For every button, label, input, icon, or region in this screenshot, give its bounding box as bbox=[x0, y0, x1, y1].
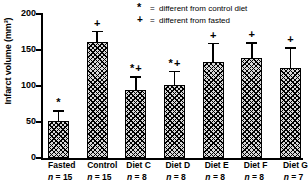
bar bbox=[241, 58, 262, 158]
y-axis-title-text: Infarct volume (mm³) bbox=[3, 18, 13, 105]
bar-group-diet-e: + bbox=[203, 14, 224, 158]
sample-size-label: n = 8 bbox=[205, 172, 226, 183]
asterisk-icon: * bbox=[56, 97, 61, 107]
error-bar-line bbox=[96, 31, 98, 43]
n-italic: n bbox=[284, 172, 289, 182]
bar-group-control: + bbox=[87, 14, 108, 158]
error-bar-line bbox=[58, 110, 60, 121]
significance-marker: + bbox=[287, 34, 294, 44]
bar-group-diet-d: *+ bbox=[164, 14, 185, 158]
n-italic: n bbox=[166, 172, 171, 182]
x-category-label: Control bbox=[87, 160, 108, 171]
error-bar-line bbox=[212, 43, 214, 62]
significance-marker: + bbox=[93, 18, 100, 28]
infarct-volume-bar-chart: * = different from control diet + = diff… bbox=[0, 0, 308, 196]
x-category-label: Diet G bbox=[283, 160, 304, 171]
error-bar-line bbox=[174, 71, 176, 85]
bar-group-diet-c: *+ bbox=[125, 14, 146, 158]
y-tick-200 bbox=[36, 13, 43, 15]
bar-group-diet-g: + bbox=[280, 14, 301, 158]
significance-marker: + bbox=[209, 30, 216, 40]
sample-size-label: n = 7 bbox=[283, 172, 304, 183]
error-bar-cap bbox=[246, 42, 257, 44]
error-bar-line bbox=[135, 76, 137, 90]
plus-icon: + bbox=[173, 58, 180, 68]
error-bar-cap bbox=[285, 47, 296, 49]
error-bar-cap bbox=[92, 31, 103, 33]
bar-series: *+*+*++++ bbox=[44, 14, 303, 158]
x-label-group-diet-d: Diet Dn = 8 bbox=[165, 160, 186, 183]
significance-marker: *+ bbox=[168, 58, 181, 68]
x-label-group-fasted: Fastedn = 15 bbox=[48, 160, 69, 183]
y-tick-label-200: 200 bbox=[8, 9, 36, 18]
error-bar-cap bbox=[208, 43, 219, 45]
y-axis-title: Infarct volume (mm³) bbox=[3, 1, 13, 121]
plot-area: 050100150200 *+*+*++++ bbox=[41, 14, 303, 158]
bar bbox=[203, 62, 224, 158]
bar bbox=[87, 42, 108, 158]
n-italic: n bbox=[87, 172, 92, 182]
n-italic: n bbox=[48, 172, 53, 182]
y-tick-label-0: 0 bbox=[8, 153, 36, 162]
bar-group-diet-f: + bbox=[241, 14, 262, 158]
n-italic: n bbox=[244, 172, 249, 182]
error-bar-cap bbox=[53, 110, 64, 112]
y-tick-100 bbox=[36, 85, 43, 87]
plus-icon: + bbox=[209, 30, 216, 40]
error-bar-cap bbox=[130, 76, 141, 78]
y-tick-50 bbox=[36, 121, 43, 123]
plus-icon: + bbox=[93, 18, 100, 28]
x-label-group-diet-c: Diet Cn = 8 bbox=[126, 160, 147, 183]
plus-icon: + bbox=[135, 63, 142, 73]
x-label-group-diet-g: Diet Gn = 7 bbox=[283, 160, 304, 183]
x-axis-labels: Fastedn = 15Controln = 15Diet Cn = 8Diet… bbox=[44, 160, 306, 183]
sample-size-label: n = 8 bbox=[165, 172, 186, 183]
x-category-label: Diet C bbox=[126, 160, 147, 171]
bar bbox=[48, 121, 69, 158]
legend-symbol-asterisk-icon: * bbox=[137, 2, 150, 13]
y-tick-label-50: 50 bbox=[8, 117, 36, 126]
x-category-label: Diet D bbox=[165, 160, 186, 171]
significance-marker: *+ bbox=[129, 63, 142, 73]
error-bar-line bbox=[290, 47, 292, 68]
plus-icon: + bbox=[248, 29, 255, 39]
y-tick-150 bbox=[36, 49, 43, 51]
sample-size-label: n = 8 bbox=[126, 172, 147, 183]
n-italic: n bbox=[205, 172, 210, 182]
y-tick-0 bbox=[36, 157, 43, 159]
x-category-label: Diet F bbox=[244, 160, 265, 171]
legend-item-asterisk: * = different from control diet bbox=[137, 2, 247, 14]
sample-size-label: n = 8 bbox=[244, 172, 265, 183]
y-tick-label-100: 100 bbox=[8, 81, 36, 90]
bar bbox=[125, 90, 146, 158]
x-label-group-diet-f: Diet Fn = 8 bbox=[244, 160, 265, 183]
sample-size-label: n = 15 bbox=[48, 172, 69, 183]
sample-size-label: n = 15 bbox=[87, 172, 108, 183]
bar-group-fasted: * bbox=[48, 14, 69, 158]
error-bar-line bbox=[251, 42, 253, 58]
plus-icon: + bbox=[287, 34, 294, 44]
x-label-group-control: Controln = 15 bbox=[87, 160, 108, 183]
legend-label-asterisk: different from control diet bbox=[159, 3, 247, 14]
x-category-label: Fasted bbox=[48, 160, 69, 171]
x-category-label: Diet E bbox=[205, 160, 226, 171]
legend-equals-asterisk: = bbox=[150, 3, 159, 14]
error-bar-cap bbox=[169, 71, 180, 73]
significance-marker: + bbox=[248, 29, 255, 39]
x-label-group-diet-e: Diet En = 8 bbox=[205, 160, 226, 183]
bar bbox=[280, 68, 301, 158]
bar bbox=[164, 85, 185, 158]
y-tick-label-150: 150 bbox=[8, 45, 36, 54]
significance-marker: * bbox=[56, 97, 61, 107]
n-italic: n bbox=[127, 172, 132, 182]
